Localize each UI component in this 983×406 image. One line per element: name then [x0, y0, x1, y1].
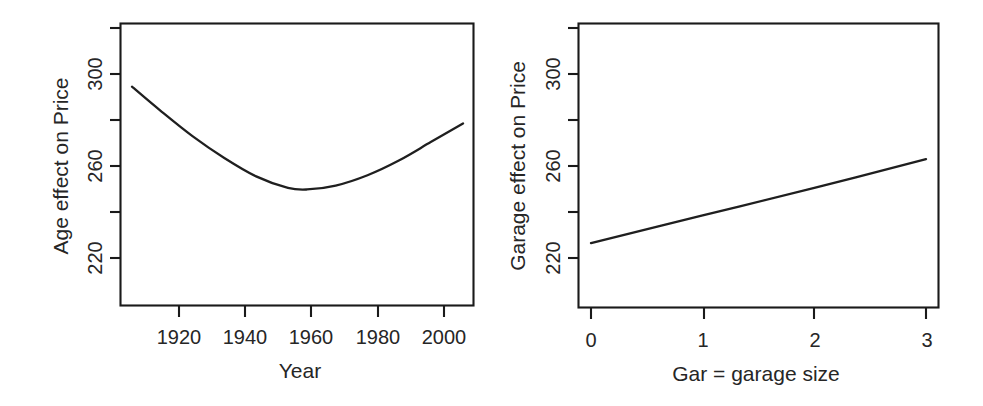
y-axis-labels-left: 300 260 220	[84, 57, 106, 274]
x-axis-ticks-right	[591, 308, 926, 320]
y-axis-label-right-1: 260	[542, 149, 564, 182]
garage-effect-plot-svg: 300 260 220 Garage effect on Price 0 1 2…	[491, 0, 983, 406]
age-effect-plot-svg: 300 260 220 Age effect on Price 1920 194…	[0, 0, 492, 406]
y-axis-labels-right: 300 260 220	[542, 57, 564, 274]
x-axis-label-left-4: 2000	[422, 326, 467, 348]
chart-panel-age-effect: 300 260 220 Age effect on Price 1920 194…	[0, 0, 492, 406]
x-axis-ticks-left	[179, 306, 444, 318]
x-axis-label-right-1: 1	[697, 329, 708, 351]
x-axis-labels-left: 1920 1940 1960 1980 2000	[157, 326, 467, 348]
y-axis-label-left-2: 220	[84, 241, 106, 274]
chart-panel-garage-effect: 300 260 220 Garage effect on Price 0 1 2…	[491, 0, 983, 406]
y-axis-label-right-0: 300	[542, 57, 564, 90]
x-axis-title-right: Gar = garage size	[672, 362, 840, 385]
y-axis-title-left: Age effect on Price	[49, 77, 72, 254]
figure-canvas: 300 260 220 Age effect on Price 1920 194…	[0, 0, 983, 406]
plot-frame-left	[121, 24, 474, 306]
x-axis-label-right-0: 0	[585, 329, 596, 351]
x-axis-labels-right: 0 1 2 3	[585, 329, 932, 351]
garage-effect-line	[591, 159, 926, 243]
x-axis-label-left-1: 1940	[223, 326, 268, 348]
age-effect-curve	[132, 87, 463, 190]
y-axis-label-right-2: 220	[542, 241, 564, 274]
x-axis-label-right-3: 3	[921, 329, 932, 351]
y-axis-label-left-0: 300	[84, 57, 106, 90]
x-axis-label-right-2: 2	[809, 329, 820, 351]
x-axis-label-left-2: 1960	[289, 326, 334, 348]
y-axis-ticks-right	[568, 28, 579, 258]
y-axis-label-left-1: 260	[84, 149, 106, 182]
plot-frame-right	[579, 24, 939, 308]
y-axis-ticks-left	[110, 28, 121, 258]
y-axis-title-right: Garage effect on Price	[506, 61, 529, 271]
x-axis-label-left-3: 1980	[356, 326, 401, 348]
x-axis-label-left-0: 1920	[157, 326, 202, 348]
x-axis-title-left: Year	[279, 359, 321, 382]
